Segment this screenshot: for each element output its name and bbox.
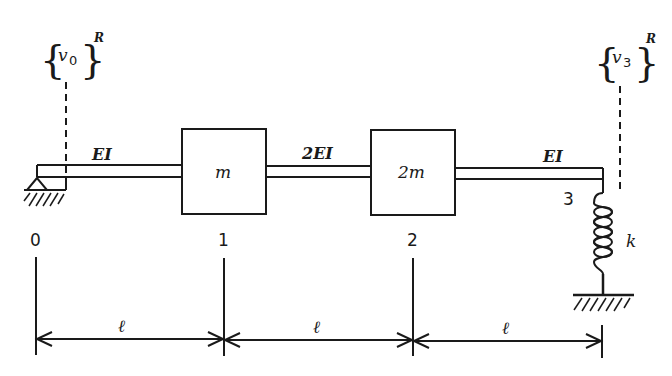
mass-label-2: 2m [397, 162, 425, 182]
svg-text:3: 3 [623, 55, 631, 70]
svg-text:R: R [93, 31, 104, 45]
stiffness-label-segment-1: EI [91, 145, 112, 164]
node-label-1: 1 [218, 230, 229, 250]
length-label-1: ℓ [118, 316, 125, 336]
svg-text:v: v [58, 45, 68, 65]
stiffness-label-segment-2: 2EI [301, 144, 333, 163]
node-label-0: 0 [30, 230, 41, 250]
length-label-2: ℓ [313, 317, 320, 337]
spring-label: k [626, 231, 636, 251]
mass-label-1: m [215, 162, 231, 182]
length-label-3: ℓ [502, 318, 509, 338]
beam-segment-1-2 [266, 166, 371, 177]
beam-diagram: { v 0 } R { v 3 } R EI 2EI EI m 2m 0 1 2… [0, 0, 672, 376]
pin-support-icon [24, 178, 66, 206]
svg-text:0: 0 [69, 53, 77, 68]
spring-icon [594, 180, 612, 295]
reaction-label-v3: { v 3 } R [594, 32, 659, 85]
beam-segment-2-3 [455, 168, 603, 180]
reaction-label-v0: { v 0 } R [40, 31, 105, 82]
stiffness-label-segment-3: EI [542, 147, 563, 166]
beam-segment-0-1 [37, 165, 182, 177]
ground-support-icon [573, 295, 634, 311]
svg-text:R: R [645, 32, 656, 46]
node-label-3: 3 [563, 189, 574, 209]
svg-text:v: v [612, 47, 622, 67]
dimension-extension-lines [36, 257, 602, 358]
node-label-2: 2 [407, 230, 418, 250]
